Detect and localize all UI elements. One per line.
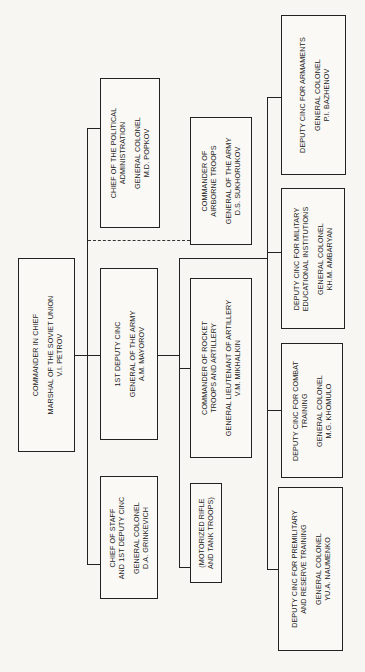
node-rank: MARSHAL OF THE SOVIET UNION xyxy=(45,296,54,415)
node-title: 1ST DEPUTY CINC xyxy=(113,311,122,398)
node-title: COMMANDER IN CHIEF xyxy=(30,296,39,415)
node-rank: GENERAL COLONEL xyxy=(132,496,141,579)
connector xyxy=(179,258,268,259)
node-name: M.D. POPKOV xyxy=(142,108,151,199)
node-airborne-troops: COMMANDER OF AIRBORNE TROOPS GENERAL OF … xyxy=(190,117,252,245)
connector xyxy=(179,368,190,369)
connector xyxy=(267,569,278,570)
node-deputy-combat-training: DEPUTY CINC FOR COMBAT TRAINING GENERAL … xyxy=(281,343,343,478)
connector xyxy=(267,410,281,411)
connector xyxy=(87,564,100,565)
node-motorized-rifle-tank-troops: (MOTORIZED RIFLE AND TANK TROOPS) xyxy=(190,483,222,583)
connector xyxy=(179,258,180,568)
node-name: P.I. BAZHENOV xyxy=(321,37,330,153)
node-title: CHIEF OF THE POLITICAL xyxy=(109,108,118,199)
connector xyxy=(267,97,268,570)
node-title: CHIEF OF STAFF xyxy=(108,496,117,579)
node-rank: GENERAL COLONEL xyxy=(314,510,323,628)
node-title: TROOPS AND ARTILLERY xyxy=(209,300,218,436)
node-title: TRAINING xyxy=(300,360,309,460)
node-first-deputy-cinc: 1ST DEPUTY CINC GENERAL OF THE ARMY A.M.… xyxy=(100,268,158,440)
node-rank: GENERAL COLONEL xyxy=(315,360,324,460)
node-title: AND TANK TROOPS) xyxy=(206,497,215,569)
connector xyxy=(87,128,88,565)
node-name: M.G. KHOMULO xyxy=(324,360,333,460)
node-rank: GENERAL COLONEL xyxy=(133,108,142,199)
node-rank: GENERAL COLONEL xyxy=(316,206,325,311)
dashed-connector xyxy=(88,240,190,241)
connector xyxy=(179,567,190,568)
node-commander-in-chief: COMMANDER IN CHIEF MARSHAL OF THE SOVIET… xyxy=(18,258,75,452)
node-name: V.M. MIKHALKIN xyxy=(233,300,242,436)
node-title: AND 1ST DEPUTY CINC xyxy=(117,496,126,579)
node-title: EDUCATIONAL INSTITUTIONS xyxy=(301,206,310,311)
node-title: DEPUTY CINC FOR PREMILITARY xyxy=(290,510,299,628)
node-name: A.M. MAYOROV xyxy=(137,311,146,398)
connector xyxy=(267,97,281,98)
node-rocket-troops-artillery: COMMANDER OF ROCKET TROOPS AND ARTILLERY… xyxy=(190,278,252,458)
node-title: DEPUTY CINC FOR MILITARY xyxy=(292,206,301,311)
node-title: DEPUTY CINC FOR COMBAT xyxy=(291,360,300,460)
org-chart: COMMANDER IN CHIEF MARSHAL OF THE SOVIET… xyxy=(0,0,365,672)
node-name: KH.M. AMBARYAN xyxy=(325,206,334,311)
node-name: D.S. SUKHORUKOV xyxy=(233,138,242,225)
node-title: ADMINISTRATION xyxy=(118,108,127,199)
node-chief-of-staff: CHIEF OF STAFF AND 1ST DEPUTY CINC GENER… xyxy=(100,476,158,599)
node-name: YU.A. NAUMENKO xyxy=(323,510,332,628)
node-title: (MOTORIZED RIFLE xyxy=(197,497,206,569)
node-name: D.A. GRINKEVICH xyxy=(141,496,150,579)
node-deputy-military-education: DEPUTY CINC FOR MILITARY EDUCATIONAL INS… xyxy=(281,188,345,329)
node-title: COMMANDER OF ROCKET xyxy=(200,300,209,436)
node-rank: GENERAL LIEUTENANT OF ARTILLERY xyxy=(224,300,233,436)
node-deputy-armaments: DEPUTY CINC FOR ARMAMENTS GENERAL COLONE… xyxy=(281,15,346,175)
node-deputy-premilitary-training: DEPUTY CINC FOR PREMILITARY AND RESERVE … xyxy=(278,487,343,651)
node-name: V.I. PETROV xyxy=(54,296,63,415)
node-title: AND RESERVE TRAINING xyxy=(299,510,308,628)
node-title: AIRBORNE TROOPS xyxy=(209,138,218,225)
node-political-administration: CHIEF OF THE POLITICAL ADMINISTRATION GE… xyxy=(100,78,160,228)
connector xyxy=(158,355,180,356)
node-title: COMMANDER OF xyxy=(200,138,209,225)
connector xyxy=(87,128,100,129)
node-title: DEPUTY CINC FOR ARMAMENTS xyxy=(297,37,306,153)
node-rank: GENERAL OF THE ARMY xyxy=(128,311,137,398)
node-rank: GENERAL COLONEL xyxy=(312,37,321,153)
node-rank: GENERAL OF THE ARMY xyxy=(224,138,233,225)
connector xyxy=(267,252,281,253)
